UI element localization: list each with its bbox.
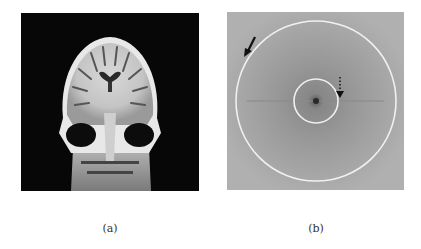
mri-brain-image — [21, 13, 199, 191]
caption-b: (b) — [296, 222, 336, 235]
mri-brain-graphic — [21, 13, 199, 191]
spectrum-graphic — [227, 12, 404, 190]
caption-a: (a) — [90, 222, 130, 235]
fourier-spectrum-image — [227, 12, 404, 190]
